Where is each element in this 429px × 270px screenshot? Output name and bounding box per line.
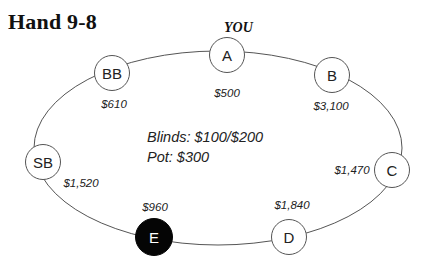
stack-seat-d: $1,840 (274, 199, 309, 211)
seat-label: BB (102, 65, 122, 82)
seat-label: D (284, 229, 295, 246)
stack-seat-e: $960 (142, 201, 168, 213)
seat-b: B (314, 57, 350, 93)
stack-seat-c: $1,470 (334, 164, 369, 176)
seat-e: E (135, 218, 173, 256)
seat-label: E (149, 229, 159, 246)
stack-seat-a: $500 (214, 87, 240, 99)
seat-label: C (387, 162, 398, 179)
seat-c: C (374, 152, 410, 188)
seat-label: SB (33, 154, 53, 171)
blinds-text: Blinds: $100/$200 (147, 127, 263, 147)
seat-d: D (271, 219, 307, 255)
pot-text: Pot: $300 (147, 147, 263, 167)
you-label: YOU (224, 20, 253, 36)
seat-sb: SB (25, 144, 61, 180)
seat-bb: BB (94, 55, 130, 91)
stack-seat-sb: $1,520 (63, 177, 98, 189)
table-info: Blinds: $100/$200 Pot: $300 (147, 127, 263, 167)
stack-seat-bb: $610 (101, 98, 127, 110)
stack-seat-b: $3,100 (313, 100, 348, 112)
seat-label: A (222, 47, 232, 64)
seat-label: B (327, 67, 337, 84)
seat-a: A (209, 37, 245, 73)
